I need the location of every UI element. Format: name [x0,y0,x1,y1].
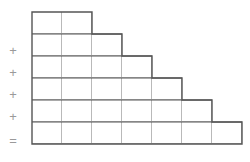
staircase-cell [62,12,92,34]
staircase-cell [32,78,62,100]
staircase-rows [32,12,242,144]
staircase-cell [122,78,152,100]
staircase-cell [92,122,122,144]
staircase-cell [32,34,62,56]
staircase-cell [32,12,62,34]
staircase-sum-figure: + + + + = [0,0,250,162]
operator-plus-4: + [0,110,26,123]
staircase-cell [122,122,152,144]
operator-equals: = [0,134,26,147]
staircase-cell [62,78,92,100]
staircase-row [32,122,242,144]
operator-column: + + + + = [0,0,32,162]
staircase-cell [182,122,212,144]
staircase-cell [62,34,92,56]
staircase-cell [92,56,122,78]
staircase-cell [62,122,92,144]
operator-plus-3: + [0,88,26,101]
staircase-row [32,34,242,56]
staircase-row [32,100,242,122]
staircase-cell [212,122,242,144]
staircase-cell [62,56,92,78]
staircase-row [32,12,242,34]
staircase-cell [92,78,122,100]
staircase-row [32,56,242,78]
staircase-cell [32,56,62,78]
staircase-cell [152,100,182,122]
staircase-cell [32,100,62,122]
staircase-cell [92,100,122,122]
staircase-cell [122,100,152,122]
staircase-cell [152,122,182,144]
staircase-cell [32,122,62,144]
operator-plus-2: + [0,66,26,79]
staircase-cell [182,100,212,122]
staircase-cell [152,78,182,100]
staircase-cell [62,100,92,122]
staircase-cell [122,56,152,78]
staircase-cell [92,34,122,56]
staircase-row [32,78,242,100]
operator-plus-1: + [0,44,26,57]
